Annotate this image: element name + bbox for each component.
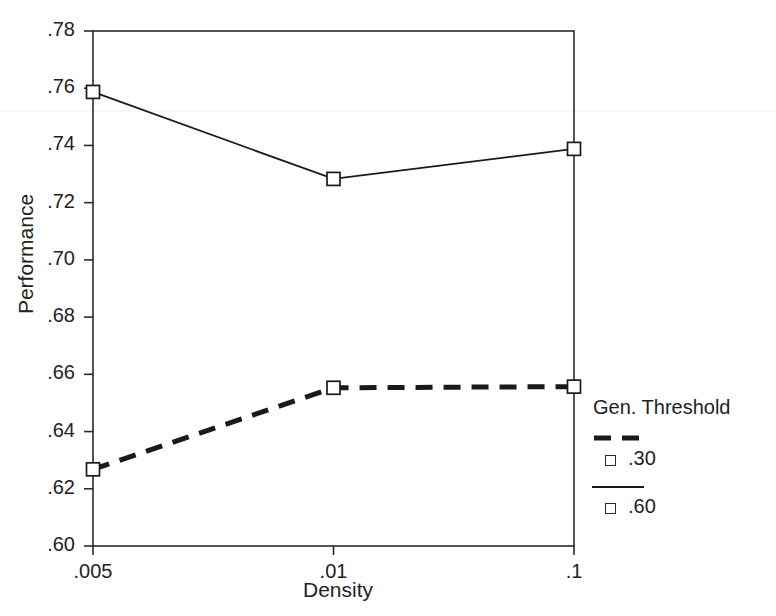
y-tick-label: .70 xyxy=(1,247,75,270)
legend-marker-30 xyxy=(605,455,616,466)
data-point-marker xyxy=(87,463,100,476)
series-line-60 xyxy=(93,92,574,179)
legend-sample-dashed xyxy=(593,434,649,442)
legend-label-30: .30 xyxy=(628,447,656,470)
y-tick-label: .76 xyxy=(1,75,75,98)
x-tick-label: .01 xyxy=(284,560,384,583)
y-tick-label: .62 xyxy=(1,476,75,499)
y-tick-label: .78 xyxy=(1,18,75,41)
legend-title: Gen. Threshold xyxy=(593,396,731,419)
x-axis-ticks xyxy=(93,546,574,555)
data-point-marker xyxy=(568,380,581,393)
x-tick-label: .005 xyxy=(43,560,143,583)
y-tick-label: .72 xyxy=(1,190,75,213)
data-point-marker xyxy=(327,172,340,185)
y-tick-label: .68 xyxy=(1,304,75,327)
data-point-marker xyxy=(87,85,100,98)
y-tick-label: .74 xyxy=(1,132,75,155)
data-series-layer xyxy=(87,85,581,475)
series-line-30 xyxy=(93,387,574,470)
chart-figure: Performance Density .60.62.64.66.68.70.7… xyxy=(0,0,776,616)
legend-label-60: .60 xyxy=(628,495,656,518)
y-tick-label: .60 xyxy=(1,533,75,556)
plot-frame xyxy=(93,31,574,546)
data-point-marker xyxy=(568,142,581,155)
data-point-marker xyxy=(327,381,340,394)
legend-sample-solid xyxy=(591,485,647,489)
legend-marker-60 xyxy=(605,503,616,514)
line-chart-plot xyxy=(0,0,776,616)
y-tick-label: .64 xyxy=(1,419,75,442)
y-tick-label: .66 xyxy=(1,361,75,384)
x-tick-label: .1 xyxy=(524,560,624,583)
